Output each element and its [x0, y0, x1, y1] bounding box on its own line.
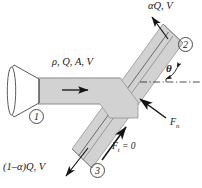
label-force-normal: Fn: [170, 117, 180, 130]
force-arrow-up-left-icon: [140, 99, 166, 118]
horizontal-pipe: [38, 78, 138, 118]
diagram-svg: [0, 0, 202, 188]
label-force-tangential-value: = 0: [122, 141, 136, 151]
label-outlet-upper: αQ, V: [148, 1, 173, 12]
station-marker-2: 2: [178, 37, 193, 52]
nozzle-mouth-ellipse: [7, 67, 15, 115]
label-force-tangential: Ft = 0: [112, 142, 136, 153]
label-outlet-lower: (1–α)Q, V: [3, 162, 45, 173]
label-angle-theta: θ: [166, 63, 172, 74]
horizontal-pipe-body: [38, 78, 138, 118]
label-force-tangential-subscript: t: [118, 146, 120, 153]
label-inlet-properties: ρ, Q, A, V: [52, 57, 93, 68]
label-force-normal-subscript: n: [176, 122, 179, 129]
station-marker-1: 1: [29, 109, 44, 124]
figure-canvas: αQ, V ρ, Q, A, V θ Fn Ft = 0 (1–α)Q, V 1…: [0, 0, 202, 188]
station-marker-3: 3: [90, 163, 105, 178]
